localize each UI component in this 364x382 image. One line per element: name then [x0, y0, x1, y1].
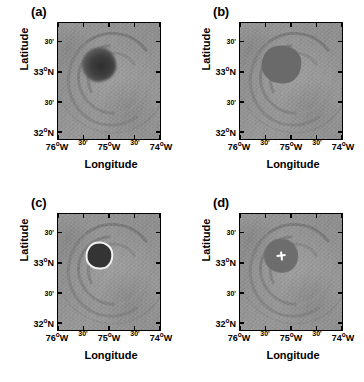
y-tick-label: 30'	[210, 37, 236, 44]
x-tick	[159, 326, 161, 330]
panel-c: (c)76oW30'75oW30'74oW30'33oN30'32oNLongi…	[0, 191, 182, 382]
satellite-swath	[57, 22, 161, 140]
x-tick	[159, 214, 161, 218]
plot-frame	[57, 213, 161, 331]
x-tick	[239, 214, 241, 218]
y-tick	[240, 322, 244, 324]
satellite-swath	[239, 22, 343, 140]
y-tick	[156, 101, 160, 103]
x-tick-label: 76oW	[228, 142, 250, 152]
y-tick	[240, 131, 244, 133]
y-tick-label: 30'	[28, 99, 54, 106]
x-tick	[316, 23, 318, 27]
x-tick	[290, 23, 292, 27]
y-tick	[156, 322, 160, 324]
y-tick	[338, 232, 342, 234]
x-axis-title: Longitude	[182, 158, 364, 170]
y-tick	[338, 41, 342, 43]
y-tick	[156, 292, 160, 294]
y-tick	[58, 322, 62, 324]
x-tick-label: 75oW	[280, 333, 302, 343]
x-axis-title: Longitude	[0, 349, 182, 361]
y-tick	[240, 71, 244, 73]
y-tick-label: 32oN	[22, 128, 54, 138]
y-axis-title: Latitude	[200, 190, 212, 290]
x-tick	[239, 23, 241, 27]
y-tick-label: 30'	[28, 290, 54, 297]
panel-label: (c)	[31, 195, 46, 210]
x-tick	[57, 23, 59, 27]
y-tick	[58, 71, 62, 73]
panel-label: (b)	[213, 4, 229, 19]
y-tick	[338, 71, 342, 73]
x-tick	[290, 326, 292, 330]
y-tick	[240, 262, 244, 264]
y-tick	[58, 41, 62, 43]
y-tick	[156, 71, 160, 73]
panel-label: (d)	[213, 195, 229, 210]
figure-root: (a)76oW30'75oW30'74oW30'33oN30'32oNLongi…	[0, 0, 364, 382]
x-tick	[108, 135, 110, 139]
x-tick	[108, 214, 110, 218]
y-tick	[58, 232, 62, 234]
y-axis-title: Latitude	[18, 190, 30, 290]
x-tick-label: 76oW	[46, 333, 68, 343]
y-tick	[58, 292, 62, 294]
y-tick-label: 32oN	[204, 128, 236, 138]
x-tick	[341, 214, 343, 218]
plot-frame	[239, 22, 343, 140]
y-tick	[338, 292, 342, 294]
y-axis-title: Latitude	[200, 0, 212, 99]
panel-a: (a)76oW30'75oW30'74oW30'33oN30'32oNLongi…	[0, 0, 182, 191]
y-tick-label: 30'	[210, 99, 236, 106]
x-tick-label: 30'	[130, 139, 139, 146]
y-tick	[240, 232, 244, 234]
x-axis-title: Longitude	[182, 349, 364, 361]
x-tick	[159, 135, 161, 139]
y-axis-title: Latitude	[18, 0, 30, 99]
y-tick	[58, 262, 62, 264]
satellite-swath	[239, 213, 343, 331]
x-tick-label: 74oW	[150, 333, 172, 343]
panel-label: (a)	[31, 4, 46, 19]
x-axis-title: Longitude	[0, 158, 182, 170]
y-tick	[338, 131, 342, 133]
image-texture	[239, 213, 343, 331]
y-tick	[58, 101, 62, 103]
x-tick	[316, 214, 318, 218]
x-tick	[159, 23, 161, 27]
x-tick-label: 75oW	[280, 142, 302, 152]
x-tick-label: 30'	[130, 330, 139, 337]
x-tick	[341, 326, 343, 330]
x-tick	[290, 214, 292, 218]
plot-frame	[239, 213, 343, 331]
x-tick-label: 74oW	[332, 333, 354, 343]
x-tick	[57, 214, 59, 218]
x-tick-label: 30'	[78, 139, 87, 146]
y-tick-label: 30'	[28, 228, 54, 235]
x-tick	[239, 326, 241, 330]
x-tick	[290, 135, 292, 139]
image-texture	[57, 22, 161, 140]
x-tick	[83, 214, 85, 218]
y-tick-label: 30'	[28, 37, 54, 44]
y-tick	[240, 41, 244, 43]
eye-center-marker	[276, 251, 286, 261]
y-tick-label: 32oN	[204, 319, 236, 329]
y-tick-label: 32oN	[22, 319, 54, 329]
x-tick-label: 76oW	[46, 142, 68, 152]
x-tick-label: 74oW	[332, 142, 354, 152]
y-tick-label: 30'	[210, 228, 236, 235]
image-texture	[57, 213, 161, 331]
x-tick	[83, 23, 85, 27]
x-tick	[57, 326, 59, 330]
y-tick	[240, 292, 244, 294]
x-tick	[57, 135, 59, 139]
y-tick	[338, 101, 342, 103]
plot-frame	[57, 22, 161, 140]
x-tick	[108, 326, 110, 330]
x-tick	[265, 214, 267, 218]
y-tick	[156, 262, 160, 264]
x-tick	[341, 135, 343, 139]
satellite-swath	[57, 213, 161, 331]
